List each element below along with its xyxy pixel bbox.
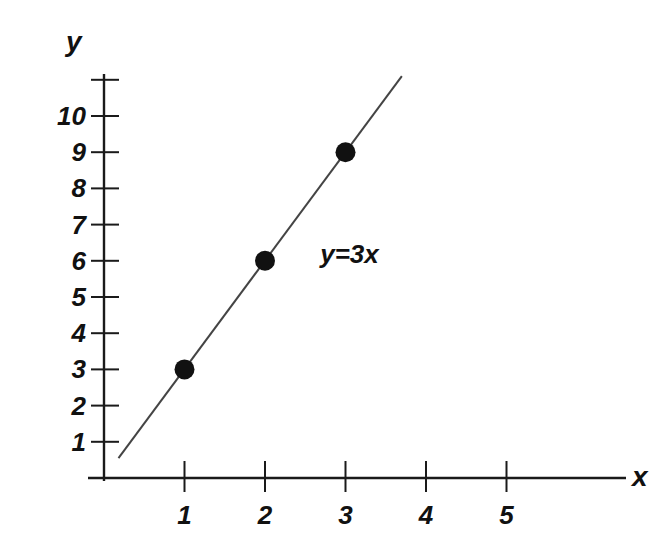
y-axis-tick-label: 5 xyxy=(72,284,86,310)
y-axis-label: y xyxy=(66,28,82,56)
x-axis-ticks xyxy=(185,461,507,492)
y-axis-tick-label: 7 xyxy=(72,212,86,238)
x-axis-tick-label: 2 xyxy=(258,502,272,528)
x-axis-tick-label: 1 xyxy=(177,502,191,528)
x-axis-label: x xyxy=(632,463,648,491)
y-axis-tick-label: 9 xyxy=(72,139,86,165)
data-point xyxy=(336,142,356,162)
x-axis-tick-label: 3 xyxy=(338,502,352,528)
x-axis-tick-label: 5 xyxy=(499,502,513,528)
chart-container: 12345678910 12345 y x y=3x xyxy=(0,0,670,552)
x-axis-tick-label: 4 xyxy=(419,502,433,528)
y-axis-tick-label: 1 xyxy=(72,429,86,455)
y-axis-tick-label: 3 xyxy=(72,356,86,382)
data-point xyxy=(255,251,275,271)
data-point xyxy=(175,359,195,379)
y-axis-tick-label: 8 xyxy=(72,175,86,201)
y-axis-tick-label: 2 xyxy=(72,393,86,419)
y-axis-tick-label: 4 xyxy=(72,320,86,346)
y-axis-tick-label: 10 xyxy=(57,103,86,129)
equation-annotation: y=3x xyxy=(320,241,379,267)
y-axis-tick-label: 6 xyxy=(72,248,86,274)
chart-plot-area xyxy=(0,0,670,552)
